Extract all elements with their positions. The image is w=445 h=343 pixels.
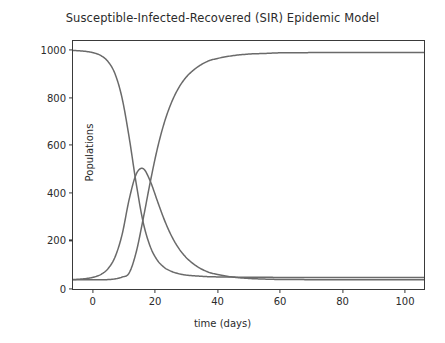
y-tick-label: 200 <box>47 235 73 246</box>
x-tick-label: 80 <box>336 289 349 307</box>
chart-title: Susceptible-Infected-Recovered (SIR) Epi… <box>0 11 445 25</box>
x-axis-label: time (days) <box>0 318 445 329</box>
y-tick-label: 800 <box>47 92 73 103</box>
series-lines <box>73 41 424 289</box>
y-tick-label: 400 <box>47 187 73 198</box>
line-series-i <box>73 168 424 280</box>
y-tick-label: 600 <box>47 140 73 151</box>
figure: Susceptible-Infected-Recovered (SIR) Epi… <box>0 0 445 343</box>
x-tick-label: 60 <box>274 289 287 307</box>
line-series-r <box>73 52 424 279</box>
y-tick-label: 0 <box>60 284 73 295</box>
x-tick-label: 100 <box>395 289 414 307</box>
y-tick-label: 1000 <box>41 44 73 55</box>
x-tick-label: 20 <box>149 289 162 307</box>
line-series-s <box>73 50 424 277</box>
plot-area: 0 200 400 600 800 1000 0 20 40 60 80 100… <box>72 40 425 290</box>
x-tick-label: 40 <box>211 289 224 307</box>
x-tick-label: 0 <box>89 289 95 307</box>
